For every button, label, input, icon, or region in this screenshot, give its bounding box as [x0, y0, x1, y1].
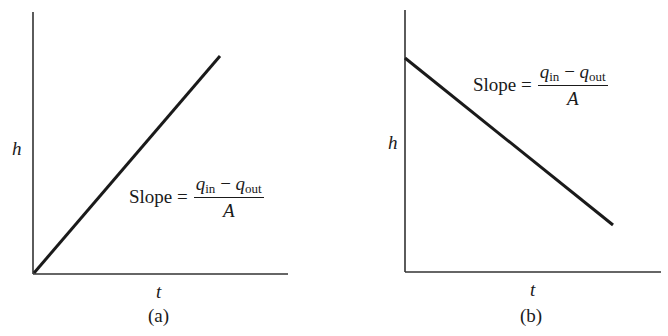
panel-a-caption: (a): [148, 306, 169, 325]
plots-canvas: [0, 0, 668, 336]
panel-a-slope-annotation: Slope = qin − qout A: [129, 174, 264, 220]
slope-denominator: A: [223, 198, 235, 220]
slope-label: Slope =: [129, 186, 188, 208]
panel-a-axes: [33, 12, 288, 274]
panel-a-y-label: h: [12, 139, 22, 158]
panel-b-x-label: t: [530, 280, 535, 299]
slope-fraction: qin − qout A: [194, 174, 264, 220]
slope-fraction: qin − qout A: [538, 62, 608, 108]
panel-b-axes: [405, 10, 661, 272]
panel-a-data-line: [34, 56, 220, 273]
slope-denominator: A: [567, 86, 579, 108]
slope-label: Slope =: [473, 74, 532, 96]
slope-numerator: qin − qout: [194, 174, 264, 198]
slope-numerator: qin − qout: [538, 62, 608, 86]
panel-b-y-label: h: [388, 133, 398, 152]
panel-b-slope-annotation: Slope = qin − qout A: [473, 62, 608, 108]
panel-b-caption: (b): [520, 306, 542, 325]
panel-a-x-label: t: [156, 282, 161, 301]
